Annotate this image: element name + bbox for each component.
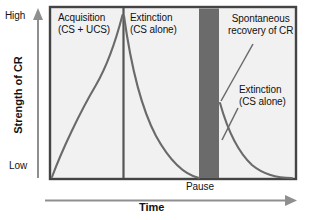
- y-axis-title: Strength of CR: [13, 56, 25, 134]
- pause-bar: [199, 9, 219, 179]
- spontaneous-recovery-label-line2: recovery of CR: [228, 25, 293, 37]
- classical-conditioning-chart: High Low Strength of CR Time Pause Acqui…: [0, 0, 310, 220]
- extinction-2-panel-label-line2: (CS alone): [239, 96, 286, 108]
- x-axis-title: Time: [139, 202, 164, 214]
- y-axis-low-label: Low: [9, 160, 27, 172]
- acquisition-panel-label-line1: Acquisition: [58, 12, 110, 24]
- extinction-1-panel-label: Extinction (CS alone): [130, 12, 177, 35]
- extinction-2-panel-label: Extinction (CS alone): [239, 84, 286, 107]
- y-axis-high-label: High: [5, 10, 25, 22]
- spontaneous-recovery-label-line1: Spontaneous: [228, 13, 293, 25]
- acquisition-panel-label: Acquisition (CS + UCS): [58, 12, 110, 35]
- pause-label: Pause: [186, 181, 214, 193]
- acquisition-panel-label-line2: (CS + UCS): [58, 24, 110, 36]
- spontaneous-recovery-label: Spontaneous recovery of CR: [228, 13, 293, 36]
- extinction-2-panel-label-line1: Extinction: [239, 84, 286, 96]
- y-axis-arrowhead: [33, 8, 43, 20]
- extinction-1-panel-label-line1: Extinction: [130, 12, 177, 24]
- x-axis-arrowhead: [285, 195, 297, 206]
- y-axis-title-wrapper: Strength of CR: [8, 40, 30, 150]
- extinction-1-panel-label-line2: (CS alone): [130, 24, 177, 36]
